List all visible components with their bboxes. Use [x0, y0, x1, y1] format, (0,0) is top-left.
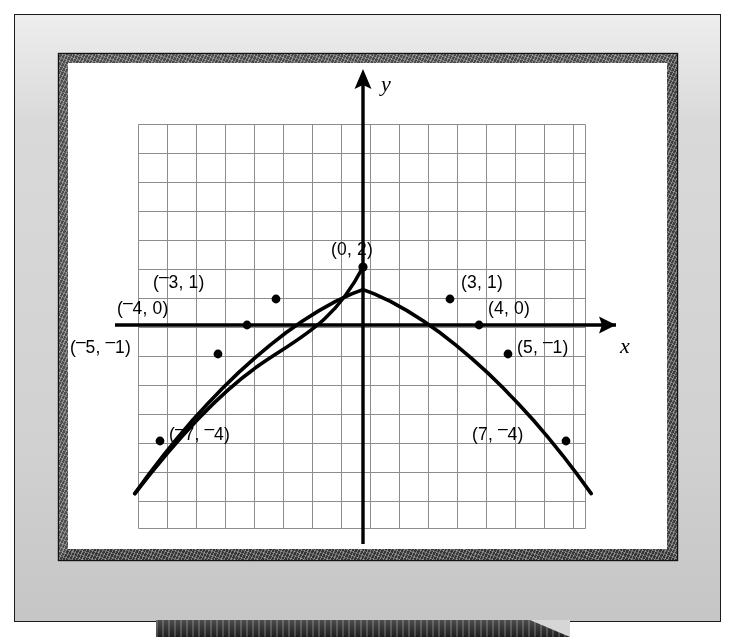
point-neg5-neg1: [214, 350, 223, 359]
point-label-neg7-neg4: (–7, –4): [169, 426, 230, 444]
point-label-0-2: (0, 2): [331, 241, 373, 259]
point-label-neg5-neg1: (–5, –1): [70, 339, 131, 357]
point-label-5-neg1: (5, –1): [517, 339, 569, 357]
point-7-neg4: [562, 437, 571, 446]
parabola-curve: [135, 267, 363, 494]
board-surface: y x (–7, –4) (–5, –1) (–4, 0) (–3, 1): [68, 63, 667, 549]
point-label-7-neg4: (7, –4): [472, 426, 524, 444]
point-label-4-0: (4, 0): [488, 300, 530, 318]
easel-leg-right: [530, 620, 570, 637]
point-label-3-1: (3, 1): [461, 274, 503, 292]
point-neg3-1: [272, 295, 281, 304]
easel-base: [156, 620, 570, 637]
point-label-neg4-0: (–4, 0): [117, 300, 169, 318]
x-axis-label: x: [619, 333, 630, 358]
point-4-0: [475, 321, 484, 330]
point-neg4-0: [243, 321, 252, 330]
point-0-2: [358, 262, 367, 271]
point-neg7-neg4: [156, 437, 165, 446]
point-5-neg1: [504, 350, 513, 359]
figure-scene: y x (–7, –4) (–5, –1) (–4, 0) (–3, 1): [0, 0, 735, 637]
point-3-1: [446, 295, 455, 304]
point-label-neg3-1: (–3, 1): [153, 274, 205, 292]
y-axis-label: y: [379, 71, 391, 96]
x-axis: [115, 317, 616, 334]
